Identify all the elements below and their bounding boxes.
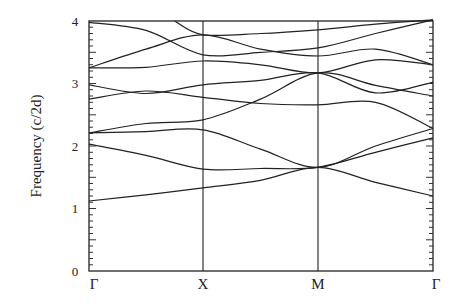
band-structure-chart: 4 3 2 1 0 Frequency (c/2d) Γ X M Γ (0, 0, 461, 306)
band-line-band4 (89, 73, 433, 133)
y-tick-2: 2 (72, 139, 79, 154)
band-line-band10 (175, 20, 434, 36)
band-line-band6 (89, 73, 433, 94)
y-tick-4: 4 (72, 14, 79, 29)
x-tick-gamma-end: Γ (432, 276, 441, 292)
band-line-band1 (89, 167, 433, 201)
y-tick-0: 0 (72, 264, 79, 279)
y-axis-label: Frequency (c/2d) (28, 95, 45, 198)
x-tick-m: M (311, 276, 324, 292)
y-axis-minor-ticks (89, 27, 433, 265)
band-line-band7 (89, 60, 433, 73)
x-tick-x: X (198, 276, 209, 292)
band-curves (89, 20, 433, 201)
band-line-band5 (89, 91, 433, 129)
band-line-band8 (89, 35, 433, 68)
band-line-band2 (89, 138, 433, 170)
plot-frame (89, 21, 433, 271)
y-tick-1: 1 (72, 201, 79, 216)
x-tick-gamma-start: Γ (90, 276, 99, 292)
y-tick-3: 3 (72, 76, 79, 91)
band-line-band3 (89, 129, 433, 168)
